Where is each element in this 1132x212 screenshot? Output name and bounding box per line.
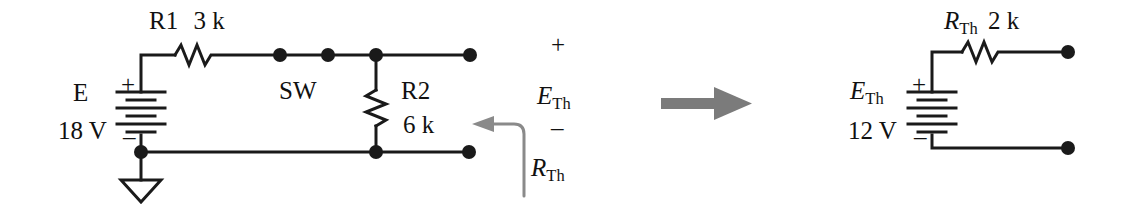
battery-minus-sign: – — [123, 124, 136, 149]
terminal-dot-top-right-circuit — [1061, 45, 1075, 59]
rth-subscript: Th — [959, 19, 978, 38]
ground-triangle-icon — [121, 180, 161, 202]
terminal-dot-top-left-circuit — [463, 48, 477, 62]
r1-value: 3 k — [193, 7, 224, 34]
th-battery-minus-sign: – — [914, 124, 927, 149]
eth-source-value: 12 V — [848, 118, 897, 143]
eth-symbol: E — [537, 82, 552, 109]
r1-name: R1 — [149, 7, 178, 34]
source-voltage-value: 18 V — [58, 118, 107, 143]
eth-source-subscript: Th — [865, 89, 884, 108]
output-minus-sign: – — [551, 115, 564, 140]
r2-label: R2 — [401, 78, 430, 103]
r1-label: R1 3 k — [149, 8, 225, 33]
rth-callout-symbol: R — [531, 154, 546, 181]
rth-callout-arrow — [472, 116, 524, 196]
wire-battery-to-r1 — [141, 55, 175, 92]
rth-callout-subscript: Th — [546, 166, 565, 185]
eth-source-symbol: E — [850, 77, 865, 104]
resistor-rth-symbol — [962, 42, 1068, 62]
resistor-r1-symbol — [175, 45, 280, 65]
circuit-diagram-figure: R1 3 k E + 18 V – SW R2 6 k + ETh – RTh … — [0, 0, 1132, 212]
eth-source-label: ETh — [850, 78, 884, 107]
node-dot-r2-bottom — [369, 145, 383, 159]
th-battery-plus-sign: + — [912, 72, 926, 97]
node-dot-switch-right — [321, 48, 335, 62]
eth-subscript: Th — [552, 94, 571, 113]
wire-th-battery-to-resistor — [932, 52, 962, 92]
wire-th-bottom-rail — [932, 135, 1068, 148]
r2-value: 6 k — [403, 112, 434, 137]
rth-callout-label: RTh — [531, 155, 565, 184]
transform-arrow-icon — [661, 87, 752, 120]
rth-resistor-label: RTh2 k — [944, 8, 1019, 37]
terminal-dot-bottom-right-circuit — [1061, 141, 1075, 155]
node-dot-switch-left — [273, 48, 287, 62]
output-voltage-label: ETh — [537, 83, 571, 112]
terminal-dot-bottom-left-circuit — [462, 145, 476, 159]
switch-label: SW — [279, 78, 317, 103]
battery-plus-sign: + — [121, 72, 135, 97]
node-dot-r2-top — [369, 48, 383, 62]
node-dot-ground — [134, 145, 148, 159]
resistor-r2-symbol — [366, 90, 386, 126]
output-plus-sign: + — [551, 32, 565, 57]
rth-symbol: R — [944, 7, 959, 34]
source-e-label: E — [73, 80, 88, 105]
rth-value: 2 k — [988, 7, 1019, 34]
